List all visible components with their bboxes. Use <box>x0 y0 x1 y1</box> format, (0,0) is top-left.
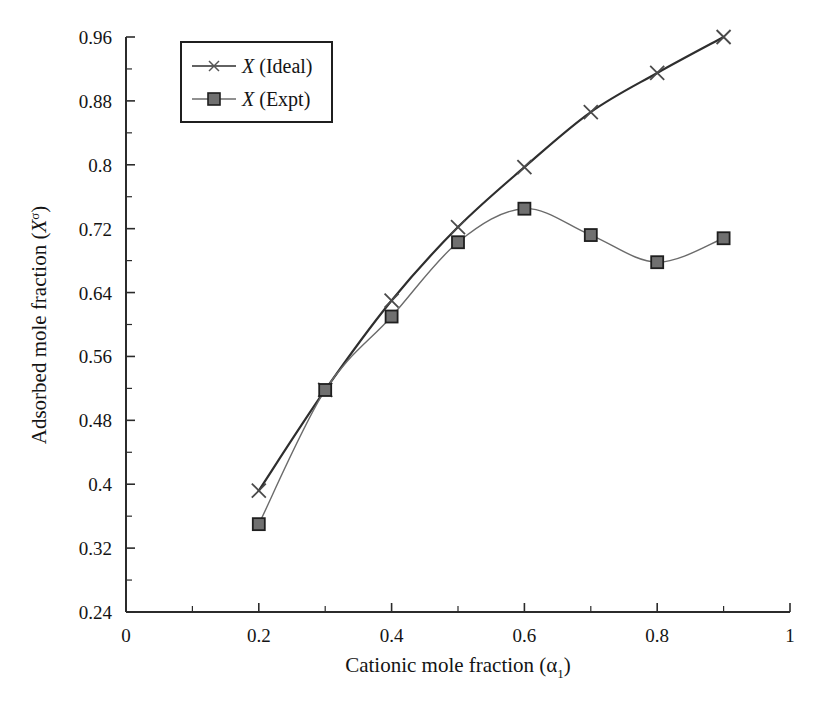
data-point-marker <box>651 256 663 268</box>
chart-background <box>0 0 832 704</box>
y-axis-title-close: ) <box>27 206 51 213</box>
square-marker-icon <box>208 93 220 105</box>
y-tick-label: 0.56 <box>79 346 112 367</box>
y-tick-label: 0.8 <box>88 155 112 176</box>
svg-text:Cationic mole fraction (α1): Cationic mole fraction (α1) <box>345 653 571 681</box>
x-axis-title-symbol: α <box>546 653 557 677</box>
legend-label-expt: X (Expt) <box>241 88 310 111</box>
y-axis-title-superscript: σ <box>27 213 42 220</box>
x-tick-label: 0 <box>121 625 131 646</box>
legend-box <box>181 42 332 122</box>
data-point-marker <box>585 229 597 241</box>
x-axis-title-text: Cationic mole fraction ( <box>345 653 546 677</box>
chart-figure: 0.240.320.40.480.560.640.720.80.880.96 0… <box>0 0 832 704</box>
data-point-marker <box>253 518 265 530</box>
y-tick-label: 0.48 <box>79 410 112 431</box>
legend-label-ideal: X (Ideal) <box>241 55 313 78</box>
data-point-marker <box>718 232 730 244</box>
y-tick-label: 0.32 <box>79 538 112 559</box>
y-tick-label: 0.88 <box>79 91 112 112</box>
x-tick-label: 0.4 <box>380 625 404 646</box>
y-tick-label: 0.24 <box>79 602 113 623</box>
y-axis-title-symbol: X <box>27 219 51 234</box>
data-point-marker <box>452 236 464 248</box>
x-axis-title: Cationic mole fraction (α1) <box>345 653 571 681</box>
y-axis-title: Adsorbed mole fraction (Xσ) <box>27 206 51 445</box>
y-tick-label: 0.64 <box>79 283 113 304</box>
data-point-marker <box>319 384 331 396</box>
x-axis-title-close: ) <box>564 653 571 677</box>
y-axis-title-text: Adsorbed mole fraction ( <box>27 233 51 445</box>
data-point-marker <box>518 203 530 215</box>
y-tick-label: 0.4 <box>88 474 112 495</box>
x-tick-label: 0.8 <box>645 625 669 646</box>
y-tick-label: 0.96 <box>79 27 112 48</box>
y-tick-label: 0.72 <box>79 219 112 240</box>
x-tick-label: 0.6 <box>513 625 537 646</box>
x-tick-label: 0.2 <box>247 625 271 646</box>
x-tick-label: 1 <box>785 625 795 646</box>
svg-text:Adsorbed mole fraction (Xσ): Adsorbed mole fraction (Xσ) <box>27 206 51 445</box>
data-point-marker <box>386 311 398 323</box>
line-chart: 0.240.320.40.480.560.640.720.80.880.96 0… <box>0 0 832 704</box>
chart-legend: X (Ideal) X (Expt) <box>181 42 332 122</box>
